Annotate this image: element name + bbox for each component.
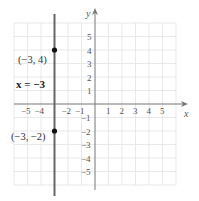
- y-tick: −2: [81, 127, 91, 137]
- y-tick: −4: [81, 154, 91, 164]
- y-axis: [92, 8, 98, 190]
- y-axis-label: y: [85, 8, 91, 19]
- y-tick: 2: [87, 73, 92, 83]
- x-tick: 2: [120, 106, 125, 116]
- point-neg3-neg2: [52, 128, 57, 133]
- y-tick: 3: [87, 59, 92, 69]
- y-tick: 4: [87, 46, 92, 56]
- y-tick: −1: [81, 113, 91, 123]
- x-tick: 5: [160, 106, 165, 116]
- x-tick: 4: [147, 106, 152, 116]
- x-axis-label: x: [183, 108, 189, 119]
- y-tick: −5: [81, 167, 91, 177]
- point-neg3-4: [52, 47, 57, 52]
- coordinate-plane: x y −5 −4 −2 −1 1 2 3 4 5 5 4 3 2 1 −1 −…: [0, 0, 199, 201]
- x-tick: −2: [62, 106, 72, 116]
- x-tick: −4: [35, 106, 45, 116]
- x-tick-labels: −5 −4 −2 −1 1 2 3 4 5: [21, 106, 165, 116]
- point-label-neg3-4: (−3, 4): [18, 54, 47, 66]
- x-tick: 3: [133, 106, 138, 116]
- y-tick: −3: [81, 140, 91, 150]
- equation-label: x = −3: [16, 78, 46, 90]
- y-tick: 1: [87, 86, 92, 96]
- x-tick: 1: [106, 106, 111, 116]
- x-tick: −5: [21, 106, 31, 116]
- point-label-neg3-neg2: (−3, −2): [11, 131, 46, 143]
- y-tick: 5: [87, 32, 92, 42]
